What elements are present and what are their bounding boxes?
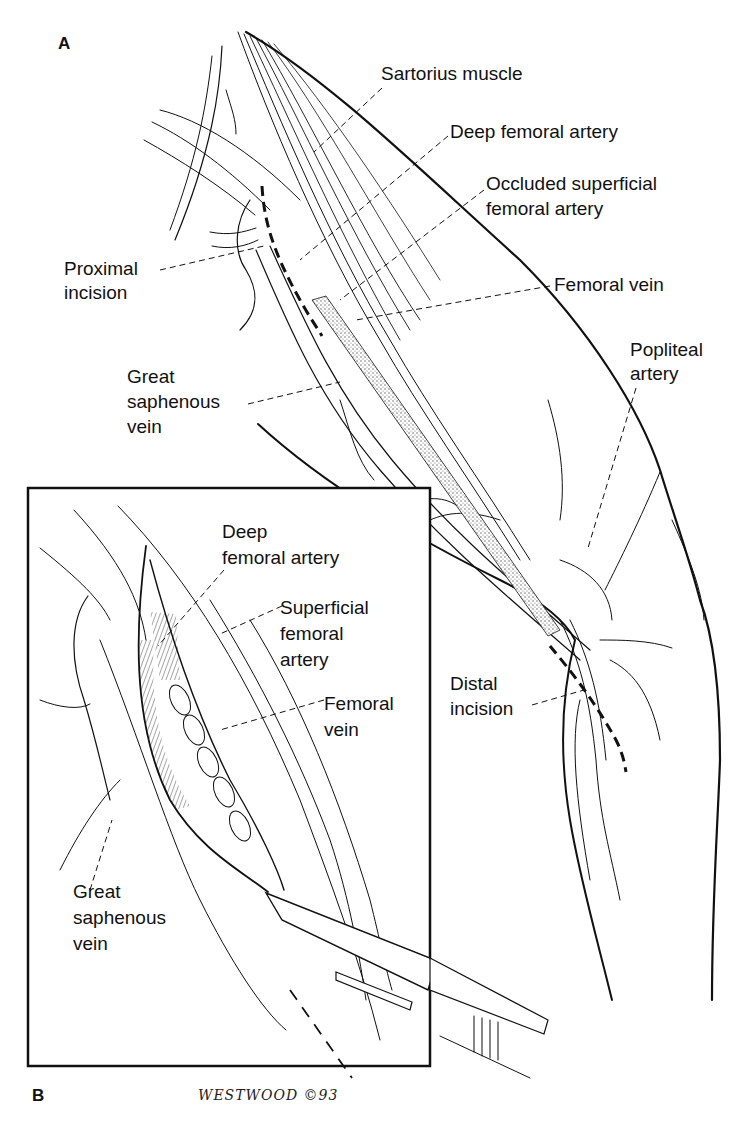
- label-femoral-vein: Femoral vein: [554, 273, 664, 296]
- label-deep-femoral-artery: Deep femoral artery: [450, 120, 618, 143]
- proximal-incision-line: [262, 186, 322, 336]
- label-distal-incision-line2: incision: [450, 697, 513, 720]
- label-b-sfa-line2: femoral: [280, 622, 343, 645]
- label-occluded-sfa-line2: femoral artery: [486, 197, 603, 220]
- line-art: [0, 0, 749, 1123]
- panel-a-letter: A: [58, 34, 70, 54]
- label-b-sfa-line1: Superficial: [280, 596, 369, 619]
- label-proximal-incision-line1: Proximal: [64, 257, 138, 280]
- label-occluded-sfa-line1: Occluded superficial: [486, 172, 657, 195]
- label-popliteal-artery-line1: Popliteal: [630, 338, 703, 361]
- label-popliteal-artery-line2: artery: [630, 362, 679, 385]
- label-b-femoral-vein-line2: vein: [324, 718, 359, 741]
- label-b-deep-femoral-line1: Deep: [222, 520, 267, 543]
- label-proximal-incision-line2: incision: [64, 281, 127, 304]
- label-b-gsv-line1: Great: [73, 880, 121, 903]
- label-great-saphenous-vein-line3: vein: [127, 415, 162, 438]
- label-b-deep-femoral-line2: femoral artery: [222, 546, 339, 569]
- label-sartorius-muscle: Sartorius muscle: [381, 62, 523, 85]
- label-b-femoral-vein-line1: Femoral: [324, 692, 394, 715]
- label-distal-incision-line1: Distal: [450, 672, 498, 695]
- label-great-saphenous-vein-line2: saphenous: [127, 390, 220, 413]
- panel-b-letter: B: [32, 1086, 44, 1106]
- figure-canvas: A Sartorius muscle Deep femoral artery O…: [0, 0, 749, 1123]
- label-b-sfa-line3: artery: [280, 648, 329, 671]
- artist-signature: WESTWOOD ©93: [198, 1087, 338, 1103]
- label-b-gsv-line2: saphenous: [73, 906, 166, 929]
- label-b-gsv-line3: vein: [73, 932, 108, 955]
- label-great-saphenous-vein-line1: Great: [127, 365, 175, 388]
